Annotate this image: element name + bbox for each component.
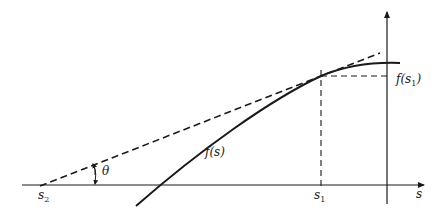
f-s1-suffix: ) bbox=[416, 72, 421, 86]
f-s1-prefix: f(s bbox=[396, 72, 411, 86]
f-s-label: f(s) bbox=[205, 146, 225, 158]
f-s1-label: f(s1) bbox=[396, 73, 421, 85]
s2-label: s2 bbox=[38, 189, 49, 201]
s1-subscript: 1 bbox=[320, 195, 325, 204]
s-axis-label: s bbox=[416, 188, 422, 200]
diagram-canvas bbox=[0, 0, 442, 213]
s1-label: s1 bbox=[314, 189, 325, 201]
s2-subscript: 2 bbox=[44, 195, 49, 204]
f-s1-subscript: 1 bbox=[411, 79, 416, 88]
theta-label: θ bbox=[102, 165, 109, 177]
